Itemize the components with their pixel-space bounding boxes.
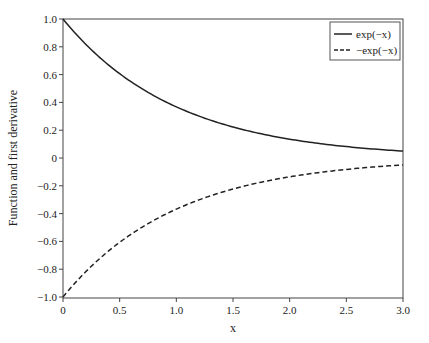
y-tick-label: 0.2 [43,124,57,136]
legend: exp(−x)−exp(−x) [330,22,400,60]
y-tick-label: 0 [52,152,58,164]
y-tick-label: −0.2 [37,180,57,192]
chart: 00.51.01.52.02.53.01.00.80.60.40.20−0.2−… [0,0,429,343]
x-tick-label: 0.5 [113,304,127,316]
y-tick-label: −0.6 [37,235,57,247]
x-tick-label: 0 [60,304,66,316]
y-tick-label: −0.4 [37,208,57,220]
y-tick-label: 1.0 [43,13,57,25]
plot-lines [63,19,403,297]
x-tick-label: 3.0 [396,304,410,316]
x-tick-label: 2.0 [283,304,297,316]
x-tick-label: 1.0 [169,304,183,316]
y-tick-label: 0.4 [43,96,57,108]
series-line [63,165,403,297]
plot-frame [63,19,403,298]
y-tick-label: 0.6 [43,69,57,81]
y-tick-label: −1.0 [37,291,57,303]
x-tick-label: 1.5 [226,304,240,316]
y-tick-label: −0.8 [37,263,57,275]
legend-label: −exp(−x) [356,44,397,57]
y-axis-label: Function and first derivative [6,90,20,226]
legend-label: exp(−x) [356,28,391,41]
x-axis-label: x [230,321,236,335]
y-tick-label: 0.8 [43,41,57,53]
x-tick-label: 2.5 [339,304,353,316]
